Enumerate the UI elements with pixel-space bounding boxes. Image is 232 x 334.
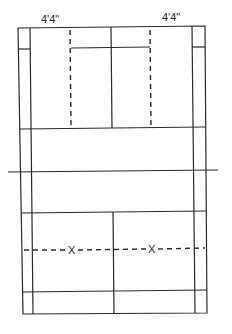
top-service-line [20,127,206,129]
left-singles-sideline [30,28,33,314]
bottom-back-service-line [22,290,207,292]
right-dashed-guide [150,30,151,126]
bottom-dashed-line-right [158,248,205,249]
net-line [8,170,218,172]
right-width-label: 4'4" [162,11,180,23]
left-width-label: 4'4" [41,13,59,25]
top-center-line [111,27,112,128]
bottom-center-line [113,212,114,313]
right-x-marker: X [148,243,156,255]
top-service-line-short [71,47,150,48]
left-dashed-guide [70,30,71,126]
bottom-dashed-line-mid [78,249,146,250]
court-diagram: 4'4" 4'4" X X [0,0,232,334]
right-singles-sideline [192,26,195,313]
left-x-marker: X [68,244,76,256]
